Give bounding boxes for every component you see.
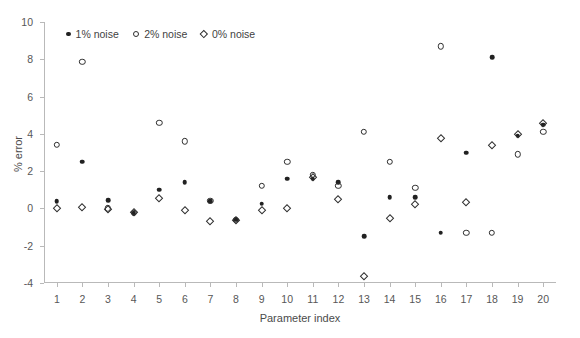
data-point bbox=[284, 159, 290, 165]
scatter-chart-figure: % error -4-20246810 12345678910111213141… bbox=[0, 0, 580, 338]
data-point bbox=[54, 142, 60, 148]
data-point bbox=[514, 130, 522, 138]
data-point bbox=[283, 204, 291, 212]
x-tick-label: 19 bbox=[512, 294, 524, 305]
data-point bbox=[78, 204, 86, 212]
y-tick-mark: 0 bbox=[40, 208, 44, 209]
data-point bbox=[488, 141, 496, 149]
legend-label: 2% noise bbox=[144, 28, 187, 40]
x-tick-label: 10 bbox=[281, 294, 293, 305]
y-tick-mark: 4 bbox=[40, 134, 44, 135]
x-tick-label: 16 bbox=[435, 294, 447, 305]
open-circle-icon bbox=[133, 31, 139, 37]
x-tick-mark: 5 bbox=[159, 283, 160, 287]
data-point bbox=[335, 183, 341, 189]
x-tick-mark: 17 bbox=[466, 283, 467, 287]
open-diamond-icon bbox=[200, 30, 208, 38]
data-point bbox=[464, 150, 469, 155]
x-tick-label: 2 bbox=[79, 294, 85, 305]
data-point bbox=[336, 180, 341, 185]
data-point bbox=[311, 176, 316, 181]
data-point bbox=[106, 198, 111, 203]
x-tick-mark: 7 bbox=[210, 283, 211, 287]
data-point bbox=[105, 205, 111, 211]
x-tick-mark: 18 bbox=[492, 283, 493, 287]
data-point bbox=[514, 151, 520, 157]
data-point bbox=[80, 160, 85, 165]
data-point bbox=[181, 206, 189, 214]
x-tick-label: 13 bbox=[358, 294, 370, 305]
x-tick-label: 15 bbox=[409, 294, 421, 305]
x-tick-label: 14 bbox=[384, 294, 396, 305]
data-point bbox=[539, 119, 547, 127]
data-point bbox=[515, 133, 520, 138]
x-tick-label: 6 bbox=[182, 294, 188, 305]
x-tick-mark: 12 bbox=[338, 283, 339, 287]
data-point bbox=[55, 199, 60, 204]
y-tick-mark: 2 bbox=[40, 171, 44, 172]
y-tick-mark: -4 bbox=[40, 283, 44, 284]
data-point bbox=[183, 180, 188, 185]
data-point bbox=[79, 59, 85, 65]
data-point bbox=[540, 129, 546, 135]
data-point bbox=[387, 195, 392, 200]
data-point bbox=[232, 216, 240, 224]
x-tick-label: 4 bbox=[131, 294, 137, 305]
data-point bbox=[233, 216, 239, 222]
y-tick-label: 6 bbox=[27, 91, 33, 102]
data-point bbox=[157, 187, 162, 192]
data-point bbox=[361, 129, 367, 135]
x-tick-label: 5 bbox=[156, 294, 162, 305]
data-point bbox=[438, 43, 444, 49]
y-tick-label: 4 bbox=[27, 129, 33, 140]
data-point bbox=[206, 218, 214, 226]
data-point bbox=[439, 230, 444, 235]
chart-legend: 1% noise2% noise0% noise bbox=[66, 28, 255, 40]
legend-label: 0% noise bbox=[212, 28, 255, 40]
x-tick-mark: 6 bbox=[185, 283, 186, 287]
y-tick-label: 0 bbox=[27, 203, 33, 214]
x-tick-mark: 20 bbox=[543, 283, 544, 287]
legend-entry: 0% noise bbox=[201, 28, 255, 40]
data-point bbox=[411, 200, 419, 208]
y-axis-line bbox=[44, 22, 45, 283]
data-point bbox=[182, 138, 188, 144]
data-point bbox=[310, 172, 316, 178]
data-point bbox=[104, 205, 112, 213]
x-tick-mark: 1 bbox=[57, 283, 58, 287]
data-point bbox=[234, 217, 239, 222]
data-point bbox=[130, 208, 138, 216]
data-point bbox=[462, 198, 470, 206]
data-point bbox=[437, 134, 445, 142]
y-tick-label: 8 bbox=[27, 54, 33, 65]
data-point bbox=[156, 119, 162, 125]
x-tick-mark: 19 bbox=[518, 283, 519, 287]
data-point bbox=[285, 176, 290, 181]
x-tick-label: 11 bbox=[307, 294, 318, 305]
x-tick-mark: 8 bbox=[236, 283, 237, 287]
x-tick-mark: 16 bbox=[441, 283, 442, 287]
data-point bbox=[489, 229, 495, 235]
x-axis-line bbox=[44, 282, 556, 283]
y-tick-label: 2 bbox=[27, 166, 33, 177]
y-axis-title: % error bbox=[12, 114, 24, 194]
data-point bbox=[208, 199, 213, 204]
x-tick-label: 12 bbox=[333, 294, 345, 305]
data-point bbox=[258, 206, 266, 214]
x-tick-mark: 13 bbox=[364, 283, 365, 287]
legend-entry: 2% noise bbox=[133, 28, 188, 40]
y-tick-mark: 10 bbox=[40, 22, 44, 23]
x-tick-label: 18 bbox=[486, 294, 498, 305]
y-tick-label: -2 bbox=[24, 240, 33, 251]
data-point bbox=[207, 198, 213, 204]
data-point bbox=[386, 159, 392, 165]
data-point bbox=[258, 183, 264, 189]
legend-label: 1% noise bbox=[76, 28, 119, 40]
data-point bbox=[413, 195, 418, 200]
y-tick-mark: 6 bbox=[40, 97, 44, 98]
x-tick-mark: 11 bbox=[313, 283, 314, 287]
x-tick-mark: 14 bbox=[390, 283, 391, 287]
x-tick-label: 7 bbox=[207, 294, 213, 305]
x-tick-label: 1 bbox=[54, 294, 60, 305]
y-tick-mark: 8 bbox=[40, 59, 44, 60]
